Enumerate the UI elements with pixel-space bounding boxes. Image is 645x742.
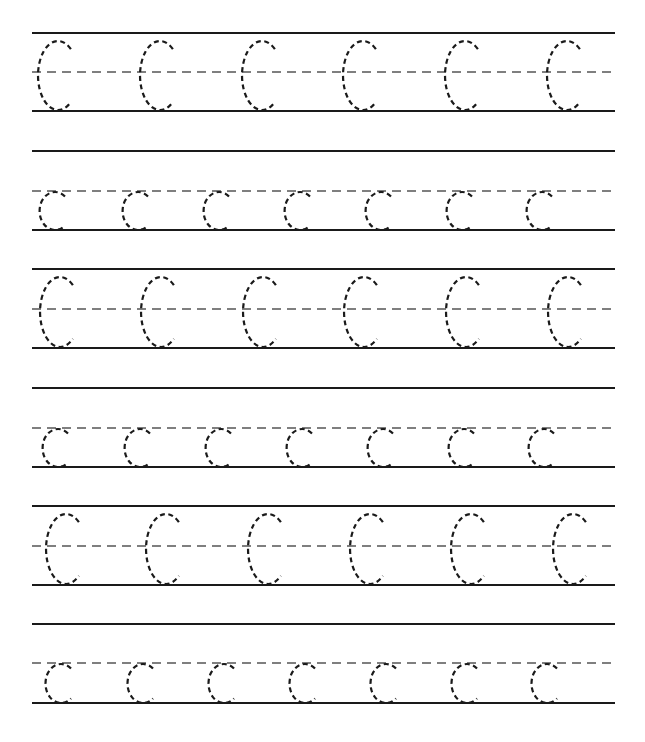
- writing-row-2: [32, 151, 615, 230]
- trace-letter-lowercase-c: [371, 664, 396, 703]
- trace-letter-lowercase-c: [123, 192, 148, 230]
- writing-row-3: [32, 269, 615, 348]
- handwriting-worksheet: [0, 0, 645, 742]
- trace-letter-lowercase-c: [366, 192, 391, 230]
- trace-letter-uppercase-c: [248, 514, 281, 584]
- trace-letter-lowercase-c: [368, 429, 393, 467]
- trace-letter-lowercase-c: [43, 429, 68, 467]
- trace-letter-uppercase-c: [40, 277, 73, 347]
- trace-letter-uppercase-c: [350, 514, 383, 584]
- trace-letter-lowercase-c: [46, 664, 71, 703]
- trace-letter-uppercase-c: [445, 41, 478, 110]
- trace-letter-lowercase-c: [287, 429, 312, 467]
- trace-letter-lowercase-c: [447, 192, 472, 230]
- trace-letter-uppercase-c: [38, 41, 71, 110]
- trace-letter-lowercase-c: [290, 664, 315, 703]
- trace-letter-lowercase-c: [204, 192, 229, 230]
- trace-letter-uppercase-c: [343, 41, 376, 110]
- trace-letter-lowercase-c: [527, 192, 552, 230]
- trace-letter-uppercase-c: [242, 41, 275, 110]
- trace-letter-lowercase-c: [40, 192, 65, 230]
- trace-letter-lowercase-c: [529, 429, 554, 467]
- writing-row-4: [32, 388, 615, 467]
- trace-letter-lowercase-c: [449, 429, 474, 467]
- trace-letter-uppercase-c: [243, 277, 276, 347]
- writing-row-5: [32, 506, 615, 585]
- trace-letter-uppercase-c: [141, 277, 174, 347]
- trace-letter-uppercase-c: [451, 514, 484, 584]
- trace-letter-lowercase-c: [206, 429, 231, 467]
- trace-letter-lowercase-c: [128, 664, 153, 703]
- trace-letter-uppercase-c: [146, 514, 179, 584]
- worksheet-canvas: [0, 0, 645, 742]
- trace-letter-lowercase-c: [452, 664, 477, 703]
- trace-letter-uppercase-c: [547, 41, 580, 110]
- trace-letter-lowercase-c: [209, 664, 234, 703]
- trace-letter-lowercase-c: [125, 429, 150, 467]
- trace-letter-lowercase-c: [532, 664, 557, 703]
- trace-letter-lowercase-c: [285, 192, 310, 230]
- trace-letter-uppercase-c: [553, 514, 586, 584]
- trace-letter-uppercase-c: [140, 41, 173, 110]
- trace-letter-uppercase-c: [344, 277, 377, 347]
- writing-row-6: [32, 624, 615, 703]
- trace-letter-uppercase-c: [548, 277, 581, 347]
- writing-row-1: [32, 33, 615, 111]
- trace-letter-uppercase-c: [46, 514, 79, 584]
- trace-letter-uppercase-c: [446, 277, 479, 347]
